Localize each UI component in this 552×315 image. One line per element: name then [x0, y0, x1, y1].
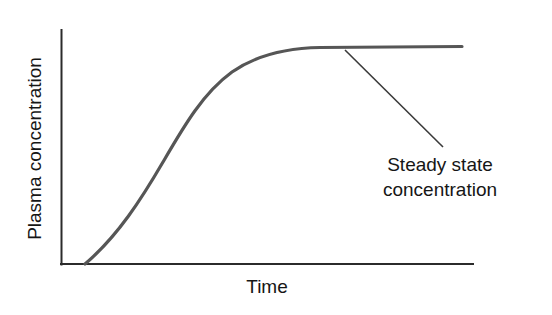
x-axis-label: Time: [61, 274, 473, 300]
annotation-leader-line: [345, 50, 443, 147]
annotation-line-2: concentration: [352, 177, 528, 202]
chart-figure: Plasma concentration Time Steady state c…: [0, 0, 552, 315]
steady-state-annotation: Steady state concentration: [352, 152, 528, 202]
annotation-line-1: Steady state: [352, 152, 528, 177]
y-axis-label: Plasma concentration: [22, 31, 48, 266]
